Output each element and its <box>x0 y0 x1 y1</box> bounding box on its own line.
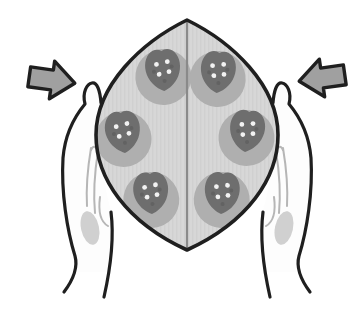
illustration-stage <box>0 0 364 314</box>
illustration-canvas <box>0 0 364 314</box>
